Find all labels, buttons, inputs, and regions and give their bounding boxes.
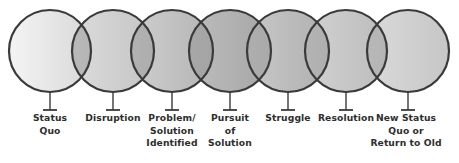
stem-pursuit-of-solution [223,92,237,110]
stem-struggle [281,92,295,110]
node-label-status-quo[interactable]: Status Quo [19,112,81,137]
process-circles-diagram: Status QuoDisruptionProblem/ Solution Id… [0,0,459,163]
node-label-new-status-quo[interactable]: New Status Quo or Return to Old [361,112,451,150]
stem-resolution [339,92,353,110]
stem-status-quo [43,92,57,110]
node-label-pursuit-of-solution[interactable]: Pursuit of Solution [199,112,261,150]
node-label-problem-solution-identified[interactable]: Problem/ Solution Identified [139,112,205,150]
node-label-struggle[interactable]: Struggle [258,112,318,125]
stem-new-status-quo [401,92,415,110]
stem-problem-solution-identified [165,92,179,110]
stem-disruption [106,92,120,110]
node-label-disruption[interactable]: Disruption [80,112,146,125]
stem-layer [43,92,415,110]
circle-layer [9,10,449,92]
